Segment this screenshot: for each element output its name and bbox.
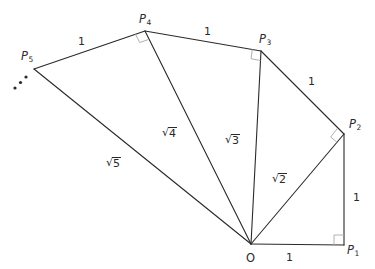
length-label-p3-p4: 1	[204, 26, 211, 37]
label-p2-sub: 2	[356, 123, 361, 132]
label-origin: O	[246, 253, 255, 265]
length-label-p2-p3: 1	[308, 76, 315, 87]
radius-o-p5	[34, 69, 251, 244]
label-p4-sub: 4	[146, 18, 151, 27]
radicand: 5	[112, 157, 121, 170]
label-p4: P4	[139, 14, 151, 27]
label-p5: P5	[21, 51, 33, 64]
edge-p4-p5	[34, 31, 145, 69]
radicand: 3	[231, 134, 240, 147]
diagram-canvas	[0, 0, 375, 269]
right-angle-icon-p2	[331, 128, 338, 142]
right-angle-icon-p1	[334, 235, 344, 245]
edge-p2-p3	[261, 51, 344, 134]
length-label-p1-p2: 1	[353, 192, 360, 203]
edge-o-p1	[251, 244, 344, 245]
radius-label-sqrt5: √5	[106, 157, 121, 170]
radius-label-sqrt4: √4	[162, 127, 177, 140]
label-p3-letter: P	[259, 32, 266, 46]
spiral-of-theodorus-diagram: O P1 P2 P3 P4 P5 1 1 1 1 1 √2 √3 √4 √5	[0, 0, 375, 269]
radius-label-sqrt2: √2	[272, 173, 287, 186]
radicand: 2	[278, 173, 287, 186]
label-p1-sub: 1	[354, 249, 359, 258]
label-p2-letter: P	[349, 117, 356, 131]
label-p3: P3	[259, 34, 271, 47]
diagram-lines	[34, 31, 344, 245]
label-p1: P1	[347, 245, 359, 258]
radius-o-p2	[251, 134, 344, 244]
label-p1-letter: P	[347, 243, 354, 257]
label-p5-sub: 5	[28, 55, 33, 64]
label-p3-sub: 3	[266, 38, 271, 47]
radius-label-sqrt3: √3	[225, 134, 240, 147]
label-p2: P2	[349, 119, 361, 132]
radicand: 4	[168, 127, 177, 140]
radius-o-p3	[251, 51, 261, 244]
edge-p3-p4	[145, 31, 261, 51]
label-p4-letter: P	[139, 12, 146, 26]
length-label-o-p1: 1	[286, 252, 293, 263]
continuation-dots-icon	[13, 75, 27, 89]
length-label-p4-p5: 1	[78, 36, 85, 47]
label-p5-letter: P	[21, 49, 28, 63]
